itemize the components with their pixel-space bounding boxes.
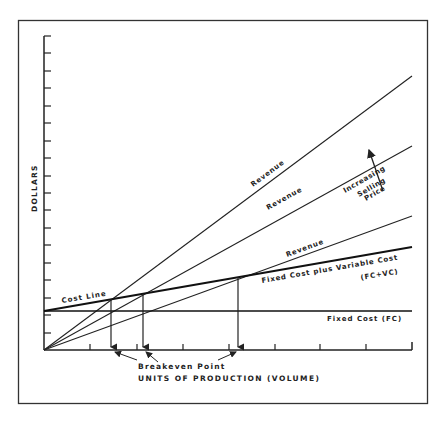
revenue-line-high	[44, 76, 412, 350]
x-axis-ticks	[90, 344, 366, 350]
breakeven-leader-arrows	[115, 352, 236, 362]
cost-line-label: Cost Line	[61, 290, 107, 305]
y-axis-ticks	[44, 36, 51, 333]
breakeven-label: Breakeven Point	[138, 362, 226, 371]
revenue-label-mid: Revenue	[265, 185, 304, 211]
data-lines	[44, 76, 412, 350]
revenue-line-low	[44, 216, 412, 350]
y-axis-label: DOLLARS	[30, 164, 39, 212]
fixed-cost-label: Fixed Cost (FC)	[327, 315, 402, 323]
fc-vc-cost-line	[44, 247, 412, 311]
x-axis-label: UNITS OF PRODUCTION (VOLUME)	[138, 374, 320, 383]
breakeven-chart: DOLLARS UNITS OF PRODUCTION (VOLUME) Rev…	[0, 0, 443, 424]
fc-vc-abbrev-label: (FC+VC)	[360, 268, 399, 282]
revenue-label-low: Revenue	[285, 238, 325, 259]
